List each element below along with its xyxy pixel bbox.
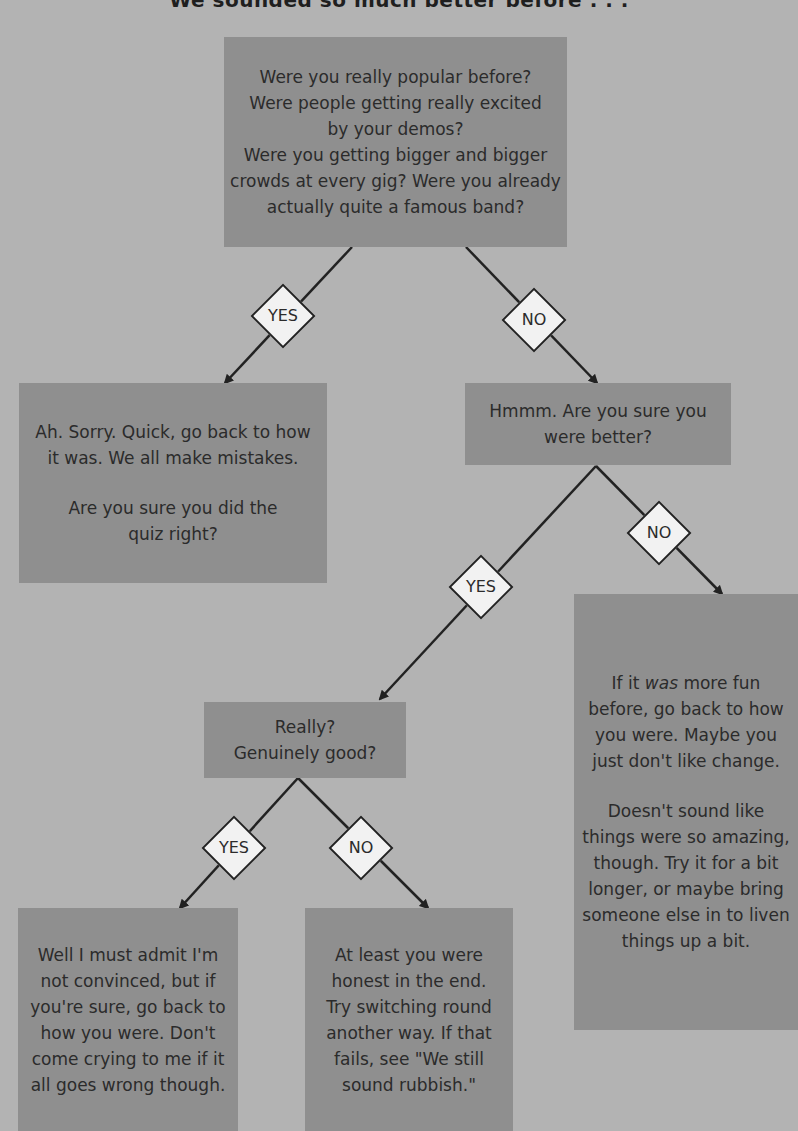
text-line: Well I must admit I'm (38, 942, 219, 968)
text-line: though. Try it for a bit (594, 850, 779, 876)
text-line: Doesn't sound like (608, 798, 764, 824)
question-popular-box: Were you really popular before? Were peo… (224, 37, 567, 247)
text-line: longer, or maybe bring (588, 876, 784, 902)
text-line: it was. We all make mistakes. (48, 445, 299, 471)
text-line: before, go back to how (588, 696, 783, 722)
text-line: another way. If that (326, 1020, 492, 1046)
text-line: how you were. Don't (41, 1020, 216, 1046)
text-line: If it was more fun (612, 670, 761, 696)
answer-not-convinced-box: Well I must admit I'm not convinced, but… (18, 908, 238, 1131)
text-line: come crying to me if it (32, 1046, 225, 1072)
yes-label: YES (446, 577, 516, 596)
answer-more-fun-box: If it was more fun before, go back to ho… (574, 594, 798, 1030)
text-line: Really? (275, 714, 335, 740)
text-line: Hmmm. Are you sure you (489, 398, 706, 424)
text-line: just don't like change. (592, 748, 780, 774)
text-line: Try switching round (326, 994, 492, 1020)
no-label: NO (326, 838, 396, 857)
text-line: sound rubbish." (342, 1072, 476, 1098)
text-line: things were so amazing, (582, 824, 790, 850)
text-line: things up a bit. (622, 928, 750, 954)
no-label: NO (499, 310, 569, 329)
text-span: If it (612, 673, 645, 693)
text-line: Were you getting bigger and bigger (244, 142, 548, 168)
question-genuine-box: Really? Genuinely good? (204, 702, 406, 778)
text-line: Were people getting really excited (249, 90, 541, 116)
yes-label: YES (199, 838, 269, 857)
text-line: someone else in to liven (582, 902, 789, 928)
text-line: Genuinely good? (234, 740, 377, 766)
text-line: honest in the end. (332, 968, 487, 994)
yes-label: YES (248, 306, 318, 325)
text-span: more fun (678, 673, 760, 693)
emphasis-text: was (645, 673, 678, 693)
text-line: Are you sure you did the (68, 495, 277, 521)
text-line: Were you really popular before? (260, 64, 532, 90)
text-line: all goes wrong though. (31, 1072, 226, 1098)
answer-sorry-box: Ah. Sorry. Quick, go back to how it was.… (19, 383, 327, 583)
answer-honest-box: At least you were honest in the end. Try… (305, 908, 513, 1131)
no-label: NO (624, 523, 694, 542)
text-line: you're sure, go back to (30, 994, 225, 1020)
text-line: fails, see "We still (334, 1046, 484, 1072)
text-line: Ah. Sorry. Quick, go back to how (35, 419, 310, 445)
text-line: actually quite a famous band? (267, 194, 524, 220)
text-line: quiz right? (128, 521, 218, 547)
text-line: not convinced, but if (40, 968, 215, 994)
question-better-box: Hmmm. Are you sure you were better? (465, 383, 731, 465)
text-line: by your demos? (328, 116, 464, 142)
text-line: crowds at every gig? Were you already (230, 168, 561, 194)
text-line: were better? (544, 424, 652, 450)
text-line: you were. Maybe you (595, 722, 777, 748)
text-line: At least you were (335, 942, 483, 968)
